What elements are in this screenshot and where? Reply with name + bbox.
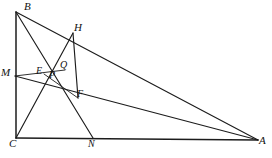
point-label-N: N [88, 139, 95, 149]
geometry-figure: B H M E P Q F C N A [0, 0, 272, 158]
point-label-M: M [1, 67, 10, 78]
point-label-E: E [36, 66, 42, 76]
geometry-canvas [0, 0, 272, 158]
segment-CA [16, 138, 258, 140]
point-label-H: H [74, 22, 82, 33]
segment-MA [15, 76, 258, 140]
point-label-B: B [24, 1, 31, 12]
point-label-P: P [49, 70, 55, 80]
point-label-C: C [9, 138, 16, 149]
point-label-F: F [77, 89, 83, 99]
segment-CH [16, 33, 73, 138]
point-label-Q: Q [60, 60, 67, 70]
point-label-A: A [259, 135, 266, 146]
